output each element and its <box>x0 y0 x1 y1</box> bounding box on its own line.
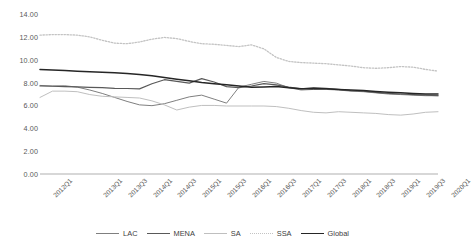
legend-label: Global <box>328 230 349 237</box>
legend-label: MENA <box>174 230 195 237</box>
series-line-ssa <box>40 35 438 72</box>
x-axis-tick-label: 2020Q1 <box>450 177 471 199</box>
series-line-global <box>40 69 438 94</box>
legend-swatch-icon <box>204 233 227 234</box>
legend-label: SA <box>231 230 241 237</box>
legend-item-sa[interactable]: SA <box>204 230 241 237</box>
legend-item-ssa[interactable]: SSA <box>250 230 292 237</box>
legend-swatch-icon <box>301 233 324 234</box>
legend-item-global[interactable]: Global <box>301 230 349 237</box>
series-line-sa <box>40 91 438 115</box>
legend-swatch-icon <box>250 233 273 234</box>
legend-swatch-icon <box>96 233 119 234</box>
legend-swatch-icon <box>147 233 170 234</box>
series-line-lac <box>40 81 438 105</box>
chart-legend: LACMENASASSAGlobal <box>0 230 445 237</box>
legend-item-mena[interactable]: MENA <box>147 230 195 237</box>
legend-label: LAC <box>123 230 137 237</box>
legend-item-lac[interactable]: LAC <box>96 230 137 237</box>
legend-label: SSA <box>277 230 292 237</box>
